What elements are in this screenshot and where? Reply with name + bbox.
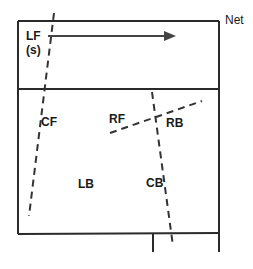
player-lf-setter-tag: (s): [26, 44, 41, 57]
net-label: Net: [225, 13, 244, 27]
court-lines: [18, 21, 219, 252]
player-rb: RB: [166, 117, 183, 130]
player-lb: LB: [78, 178, 94, 191]
player-cf: CF: [41, 116, 57, 129]
player-cb: CB: [146, 177, 163, 190]
player-lf: LF: [26, 30, 41, 43]
setter-movement-arrow: [48, 31, 176, 41]
end-line: [18, 233, 219, 234]
player-rf: RF: [109, 113, 125, 126]
